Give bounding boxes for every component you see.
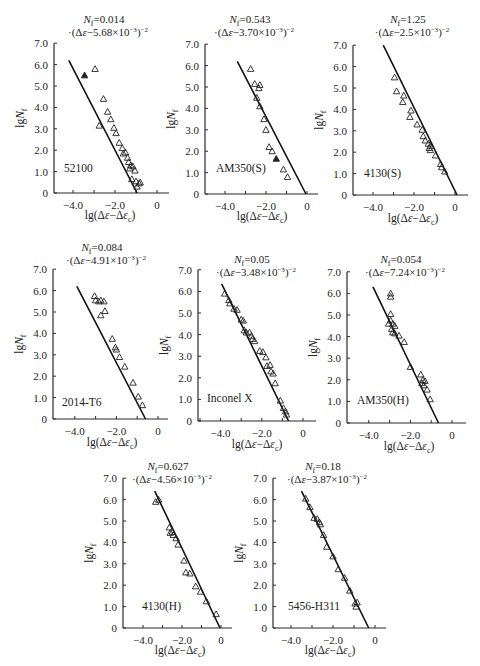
y-tick-label: 5.0 <box>33 306 47 318</box>
y-tick-label: 3.0 <box>333 125 347 137</box>
y-tick-label: 3.0 <box>178 350 192 362</box>
y-tick-label: 1.0 <box>103 601 117 613</box>
y-tick-label: 0 <box>262 622 268 634</box>
y-tick-label: 5.0 <box>253 515 267 527</box>
equation-line-2: ·(Δε−3.70×10−3)−2 <box>214 26 294 39</box>
data-point-triangle <box>269 148 275 154</box>
y-tick-label: 2.0 <box>333 146 347 158</box>
y-tick-label: 2.0 <box>34 144 48 156</box>
data-point-triangle <box>251 338 257 344</box>
material-label: Inconel X <box>207 392 253 404</box>
y-axis-label: lgNf <box>313 110 328 130</box>
y-tick-label: 4.0 <box>333 103 347 115</box>
fit-line <box>237 61 306 194</box>
y-tick-label: 1.0 <box>327 395 341 407</box>
y-tick-label: 7.0 <box>178 264 192 276</box>
y-tick-label: 5.0 <box>327 309 341 321</box>
equation-line-2: ·(Δε−2.5×10−3)−2 <box>375 26 450 39</box>
data-point-triangle <box>116 140 122 146</box>
data-point-triangle <box>116 354 122 360</box>
figure: 01.02.03.04.05.06.07.0−4.0−2.00lg(Δε−Δεc… <box>0 0 480 666</box>
x-axis-label: lg(Δε−Δεc) <box>87 436 138 451</box>
y-tick-label: 6.0 <box>185 60 199 72</box>
data-point-triangle <box>391 74 397 80</box>
y-tick-label: 6.0 <box>33 285 47 297</box>
y-axis-label: lgNf <box>14 108 29 128</box>
data-point-triangle <box>400 99 406 105</box>
x-tick-label: 0 <box>218 634 224 646</box>
y-tick-label: 6.0 <box>178 285 192 297</box>
data-point-triangle <box>387 311 393 317</box>
equation-line-2: ·(Δε−3.48×10−3)−2 <box>216 266 296 279</box>
y-tick-label: 5.0 <box>185 81 199 93</box>
y-tick-label: 4.0 <box>34 101 48 113</box>
panel-inconel-x: 01.02.03.04.05.06.07.0−4.0−2.00lg(Δε−Δεc… <box>158 253 316 453</box>
data-point-triangle <box>393 88 399 94</box>
y-tick-label: 3.0 <box>327 352 341 364</box>
data-point-triangle <box>263 127 269 133</box>
y-tick-label: 7.0 <box>253 472 267 484</box>
material-label: 52100 <box>64 162 93 174</box>
y-tick-label: 1.0 <box>34 166 48 178</box>
equation-line-2: ·(Δε−5.68×10−3)−2 <box>68 26 148 39</box>
data-point-triangle <box>280 166 286 172</box>
y-tick-label: 4.0 <box>178 329 192 341</box>
x-tick-label: 0 <box>304 200 310 212</box>
x-tick-label: 0 <box>154 199 160 211</box>
data-point-triangle <box>252 81 258 87</box>
data-point-triangle <box>104 108 110 114</box>
y-axis-label: lgNf <box>233 543 248 563</box>
y-axis-label: lgNf <box>158 335 173 355</box>
x-axis-label: lg(Δε−Δεc) <box>237 210 288 225</box>
x-tick-label: −4.0 <box>63 199 83 211</box>
y-tick-label: 0 <box>194 188 200 200</box>
y-tick-label: 0 <box>112 622 118 634</box>
data-point-triangle <box>92 66 98 72</box>
y-tick-label: 3.0 <box>185 124 199 136</box>
y-tick-label: 4.0 <box>185 102 199 114</box>
data-point-triangle <box>270 370 276 376</box>
y-tick-label: 4.0 <box>253 536 267 548</box>
equation-line-2: ·(Δε−7.24×10−3)−2 <box>365 266 445 279</box>
data-point-triangle <box>263 354 269 360</box>
y-tick-label: 0 <box>42 413 48 425</box>
y-tick-label: 6.0 <box>333 61 347 73</box>
y-tick-label: 2.0 <box>33 370 47 382</box>
y-tick-label: 6.0 <box>103 494 117 506</box>
x-tick-label: −4.0 <box>281 634 301 646</box>
y-tick-label: 4.0 <box>103 536 117 548</box>
y-tick-label: 7.0 <box>327 266 341 278</box>
y-tick-label: 7.0 <box>34 37 48 49</box>
y-tick-label: 1.0 <box>333 168 347 180</box>
material-label: 5456-H311 <box>288 600 340 612</box>
x-tick-label: −4.0 <box>363 201 383 213</box>
y-axis-label: lgNf <box>83 543 98 563</box>
y-tick-label: 3.0 <box>33 349 47 361</box>
data-point-triangle <box>408 107 414 113</box>
x-tick-label: −4.0 <box>359 429 379 441</box>
y-tick-label: 5.0 <box>178 307 192 319</box>
panel-4130-h-: 01.02.03.04.05.06.07.0−4.0−2.00lg(Δε−Δεc… <box>83 460 232 659</box>
panel-2014-t6: 01.02.03.04.05.06.07.0−4.0−2.00lg(Δε−Δεc… <box>13 241 168 451</box>
material-label: 2014-T6 <box>62 396 102 408</box>
x-axis-label: lg(Δε−Δεc) <box>384 440 435 455</box>
y-axis-label: lgNf <box>13 334 28 354</box>
x-tick-label: −4.0 <box>133 634 153 646</box>
panel-5456-h311: 01.02.03.04.05.06.07.0−4.0−2.00lg(Δε−Δεc… <box>233 460 386 659</box>
x-axis-label: lg(Δε−Δεc) <box>232 438 283 453</box>
data-point-triangle <box>130 379 136 385</box>
y-tick-label: 3.0 <box>253 558 267 570</box>
y-axis-label: lgNf <box>307 337 322 357</box>
y-tick-label: 2.0 <box>103 579 117 591</box>
y-tick-label: 0 <box>336 417 342 429</box>
x-tick-label: 0 <box>372 634 378 646</box>
y-tick-label: 6.0 <box>327 287 341 299</box>
y-tick-label: 7.0 <box>333 39 347 51</box>
data-point-triangle <box>81 72 87 78</box>
y-tick-label: 7.0 <box>33 263 47 275</box>
y-tick-label: 1.0 <box>185 167 199 179</box>
x-axis-label: lg(Δε−Δεc) <box>305 644 356 659</box>
y-tick-label: 2.0 <box>327 374 341 386</box>
material-label: AM350(S) <box>216 162 266 175</box>
data-point-triangle <box>427 396 433 402</box>
